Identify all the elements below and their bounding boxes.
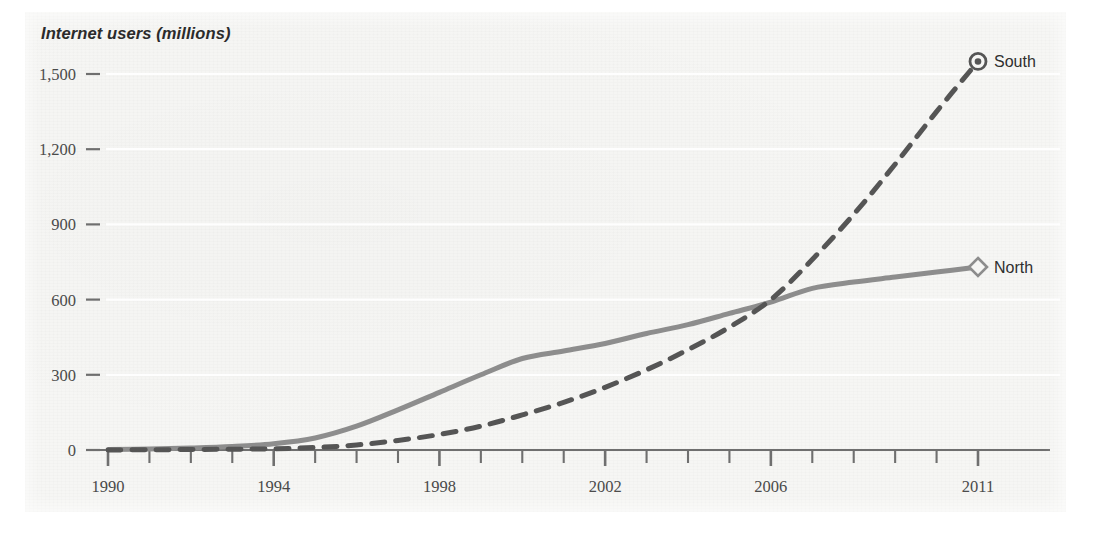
y-axis-label: 600 [51, 291, 76, 310]
x-axis-label: 2006 [754, 477, 787, 496]
x-axis-labels: 199019941998200220062011 [92, 477, 995, 496]
series-line-south [108, 61, 978, 450]
gridlines [106, 74, 1060, 375]
y-axis-label: 300 [51, 366, 76, 385]
chart-page: Internet users (millions) 03006009001,20… [0, 0, 1099, 538]
x-axis-label: 1994 [257, 477, 290, 496]
y-axis-ticks [86, 74, 100, 450]
series-markers [969, 53, 987, 276]
marker-circle-dot-south [975, 58, 982, 65]
y-axis-label: 1,500 [39, 65, 76, 84]
x-axis-label: 1990 [92, 477, 125, 496]
x-axis-label: 2002 [589, 477, 622, 496]
y-axis-label: 0 [68, 441, 76, 460]
series-line-north [108, 267, 978, 449]
marker-diamond-north [969, 258, 987, 276]
series-labels: NorthSouth [994, 53, 1036, 276]
y-axis-label: 1,200 [39, 140, 76, 159]
y-axis-label: 900 [51, 215, 76, 234]
y-axis-labels: 03006009001,2001,500 [39, 65, 76, 460]
x-axis-ticks [108, 451, 978, 466]
series-label-south: South [994, 53, 1036, 70]
series-lines [108, 61, 978, 450]
axis-title: Internet users (millions) [41, 24, 231, 43]
line-chart: 03006009001,2001,500 1990199419982002200… [0, 0, 1099, 538]
series-label-north: North [994, 259, 1033, 276]
x-axis-label: 1998 [423, 477, 456, 496]
x-axis-label: 2011 [962, 477, 994, 496]
